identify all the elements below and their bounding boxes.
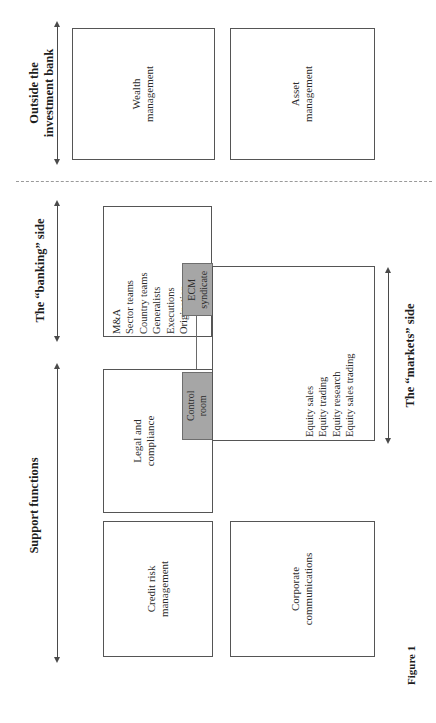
banking-item: Country teams	[137, 206, 150, 334]
box-wealth-management-line2: management	[143, 66, 156, 122]
box-wealth-management-label: Wealth management	[131, 66, 157, 122]
section-label-support: Support functions	[27, 441, 42, 571]
section-label-outside: Outside the investment bank	[27, 28, 57, 158]
banking-item: Sector teams	[123, 206, 136, 334]
box-corporate-communications: Corporate communications	[230, 521, 375, 657]
box-legal-and-compliance-label: Legal and compliance	[131, 416, 157, 467]
box-ecm-syndicate-line1: ECM	[186, 271, 198, 309]
banking-item: Generalists	[150, 206, 163, 334]
box-credit-risk-management: Credit risk management	[103, 521, 213, 657]
section-label-outside-line2: investment bank	[42, 28, 57, 158]
banking-item: M&A	[110, 206, 123, 334]
box-asset-management-line1: Asset	[290, 66, 303, 122]
box-corporate-communications-line1: Corporate	[290, 553, 303, 626]
figure-diagram: Outside the investment bank Wealth manag…	[0, 0, 436, 723]
box-credit-risk-management-line1: Credit risk	[145, 561, 158, 617]
bracket-arrow-markets	[388, 272, 389, 439]
bracket-arrow-banking	[57, 205, 58, 337]
section-label-markets: The “markets” side	[403, 291, 418, 421]
box-control-room: Control room	[182, 372, 213, 440]
markets-item: Equity research	[330, 267, 343, 437]
box-corporate-communications-label: Corporate communications	[290, 553, 316, 626]
box-corporate-communications-line2: communications	[303, 553, 316, 626]
banking-item: Executions	[164, 206, 177, 334]
box-asset-management: Asset management	[230, 28, 375, 160]
markets-item: Equity sales	[303, 267, 316, 437]
box-wealth-management-line1: Wealth	[131, 66, 144, 122]
figure-caption-text: Figure 1	[405, 646, 417, 685]
figure-caption: Figure 1	[405, 625, 417, 685]
box-control-room-line1: Control	[186, 391, 198, 422]
box-asset-management-label: Asset management	[290, 66, 316, 122]
box-ecm-syndicate-label: ECM syndicate	[186, 271, 210, 309]
markets-item: Equity sales trading	[343, 267, 356, 437]
box-control-room-line2: room	[198, 391, 210, 422]
section-label-banking-line1: The “banking” side	[33, 206, 48, 336]
box-ecm-syndicate: ECM syndicate	[182, 263, 213, 316]
box-control-room-label: Control room	[186, 391, 210, 422]
bracket-arrow-support	[57, 368, 58, 658]
box-credit-risk-management-label: Credit risk management	[145, 561, 171, 617]
box-asset-management-line2: management	[302, 66, 315, 122]
box-ecm-syndicate-line2: syndicate	[198, 271, 210, 309]
section-label-banking: The “banking” side	[33, 206, 48, 336]
bracket-arrow-outside	[57, 26, 58, 160]
box-wealth-management: Wealth management	[72, 28, 215, 160]
section-label-markets-line1: The “markets” side	[403, 291, 418, 421]
section-label-support-line1: Support functions	[27, 441, 42, 571]
box-markets-side-items: Equity sales Equity trading Equity resea…	[303, 267, 357, 437]
section-divider-dashed	[16, 181, 432, 182]
box-legal-and-compliance-line1: Legal and	[131, 416, 144, 467]
section-label-outside-line1: Outside the	[27, 28, 42, 158]
box-legal-and-compliance-line2: compliance	[144, 416, 157, 467]
box-banking-side-items: M&A Sector teams Country teams Generalis…	[110, 206, 191, 334]
box-credit-risk-management-line2: management	[158, 561, 171, 617]
connector-ecm-vertical	[196, 315, 197, 372]
markets-item: Equity trading	[316, 267, 329, 437]
